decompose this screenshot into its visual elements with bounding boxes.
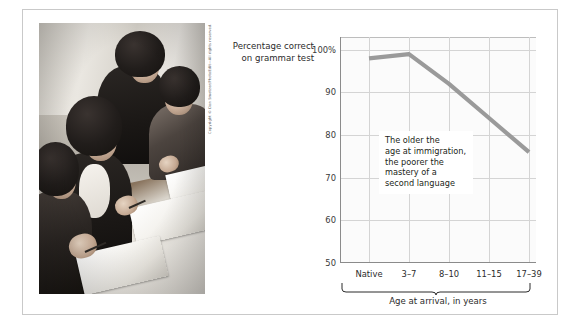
plot-area: 100% 90 80 70 60 50 Native 3–7 8–10 11–1… — [340, 37, 536, 263]
x-tick-label: 3–7 — [402, 269, 417, 279]
photo-credit: Copyright © Don Smetzer/PhotoEdit—All ri… — [209, 0, 213, 134]
plot-area-wrapper: 100% 90 80 70 60 50 Native 3–7 8–10 11–1… — [340, 37, 536, 263]
x-axis-title: Age at arrival, in years — [340, 296, 536, 306]
line-chart: Percentage correct on grammar test 100% … — [228, 20, 546, 306]
y-tick-label: 90 — [325, 87, 336, 97]
y-tick-label: 100% — [312, 45, 336, 55]
x-tick-label: Native — [355, 269, 382, 279]
figure-panel: Copyright © Don Smetzer/PhotoEdit—All ri… — [22, 9, 558, 315]
y-tick-label: 80 — [325, 130, 336, 140]
x-range-bracket — [340, 282, 536, 296]
y-tick-label: 60 — [325, 215, 336, 225]
chart-annotation-callout: The older the age at immigration, the po… — [379, 131, 473, 194]
photo-vignette — [39, 23, 205, 294]
y-tick-label: 70 — [325, 173, 336, 183]
x-tick-label: 17–39 — [516, 269, 542, 279]
classroom-photograph — [39, 23, 205, 294]
photograph-block — [39, 23, 205, 294]
x-tick-label: 8–10 — [439, 269, 459, 279]
x-tick-label: 11–15 — [476, 269, 502, 279]
y-tick-label: 50 — [325, 258, 336, 268]
y-axis-title: Percentage correct on grammar test — [228, 41, 314, 64]
